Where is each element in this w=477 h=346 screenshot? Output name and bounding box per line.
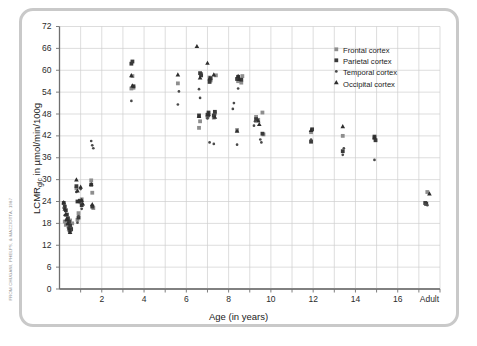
data-point bbox=[197, 126, 201, 130]
data-point bbox=[205, 61, 210, 65]
data-point bbox=[240, 74, 244, 78]
data-point bbox=[176, 81, 180, 85]
data-point bbox=[199, 97, 202, 100]
data-point bbox=[130, 100, 133, 103]
data-point bbox=[76, 221, 79, 224]
legend-label: Temporal cortex bbox=[343, 67, 397, 78]
x-tick-label: 4 bbox=[124, 294, 164, 304]
y-tick-label: 72 bbox=[30, 21, 52, 31]
legend-item: Parietal cortex bbox=[332, 56, 397, 67]
legend-label: Occipital cortex bbox=[343, 79, 395, 90]
chart-legend: Frontal cortexParietal cortexTemporal co… bbox=[332, 45, 397, 90]
data-point bbox=[198, 119, 202, 123]
data-point bbox=[195, 44, 200, 48]
scatter-plot: 061218243036424854606672246810121416Adul… bbox=[0, 0, 477, 346]
legend-item: Temporal cortex bbox=[332, 67, 397, 78]
data-point bbox=[75, 184, 79, 188]
data-point bbox=[131, 60, 135, 64]
legend-label: Parietal cortex bbox=[343, 56, 392, 67]
data-point bbox=[236, 143, 239, 146]
data-point bbox=[89, 178, 93, 182]
data-point bbox=[178, 90, 181, 93]
data-point bbox=[231, 108, 234, 111]
legend-item: Occipital cortex bbox=[332, 79, 397, 90]
data-point bbox=[257, 122, 262, 126]
data-point bbox=[342, 147, 345, 150]
data-point bbox=[261, 111, 265, 115]
data-point bbox=[198, 88, 201, 91]
data-point bbox=[237, 87, 240, 90]
x-tick-label: 2 bbox=[82, 294, 122, 304]
data-point bbox=[341, 149, 345, 153]
x-axis-title: Age (in years) bbox=[0, 311, 477, 322]
x-tick-label: 8 bbox=[209, 294, 249, 304]
data-point bbox=[341, 134, 345, 138]
y-tick-label: 0 bbox=[30, 284, 52, 294]
data-point bbox=[177, 103, 180, 106]
data-point bbox=[90, 202, 95, 206]
data-point bbox=[253, 124, 256, 127]
data-point bbox=[90, 191, 94, 195]
data-point bbox=[260, 141, 263, 144]
legend-item: Frontal cortex bbox=[332, 45, 397, 56]
data-point bbox=[261, 132, 265, 136]
data-point bbox=[233, 102, 236, 105]
x-tick-label: 12 bbox=[293, 294, 333, 304]
data-point bbox=[92, 147, 95, 150]
x-tick-label: Adult bbox=[409, 294, 449, 304]
data-point bbox=[426, 204, 429, 207]
data-point bbox=[212, 143, 215, 146]
x-tick-label: 6 bbox=[166, 294, 206, 304]
data-point bbox=[341, 153, 344, 156]
y-axis-title: LCMRglc in µmol/min/100g bbox=[31, 48, 44, 268]
data-point bbox=[340, 124, 345, 128]
data-point bbox=[254, 120, 257, 123]
data-point bbox=[91, 144, 94, 147]
data-point bbox=[77, 215, 80, 218]
legend-label: Frontal cortex bbox=[343, 45, 389, 56]
data-point bbox=[77, 211, 81, 215]
legend-triangle-icon bbox=[332, 78, 341, 90]
data-point bbox=[213, 110, 217, 114]
data-point bbox=[208, 80, 212, 84]
data-point bbox=[310, 138, 313, 141]
data-point bbox=[373, 159, 376, 162]
data-point bbox=[80, 207, 83, 210]
data-point bbox=[176, 72, 181, 76]
x-tick-label: 14 bbox=[335, 294, 375, 304]
x-tick-label: 10 bbox=[251, 294, 291, 304]
data-point bbox=[90, 140, 93, 143]
data-point bbox=[208, 141, 211, 144]
data-point bbox=[78, 185, 83, 189]
data-point bbox=[259, 138, 262, 141]
